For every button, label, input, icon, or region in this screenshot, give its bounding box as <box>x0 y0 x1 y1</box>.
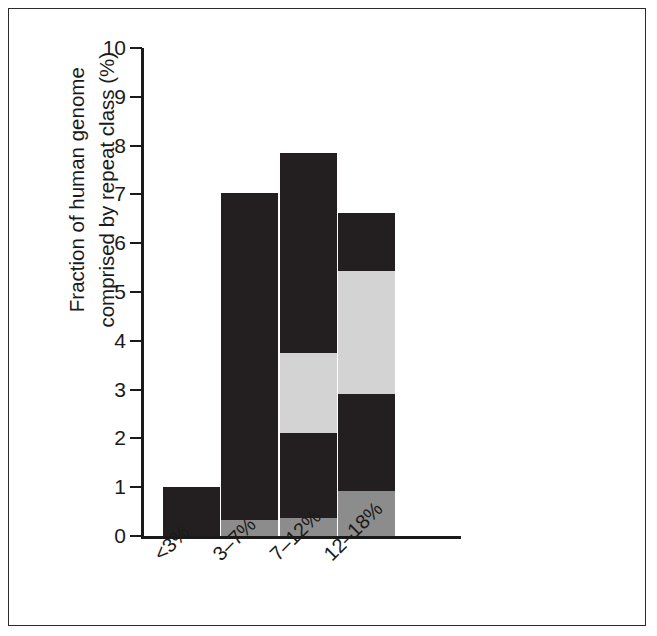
y-tick-label: 5 <box>92 281 126 302</box>
y-tick-label: 7 <box>92 183 126 204</box>
bar-segment-segment-lower-dark <box>338 394 395 492</box>
y-tick-label-text: 7 <box>96 183 126 204</box>
y-tick-mark <box>130 96 142 98</box>
bar-segment-segment-light <box>338 271 395 393</box>
y-tick-mark <box>130 193 142 195</box>
y-tick-label: 10 <box>92 37 126 58</box>
bar-segment-segment-light <box>280 353 337 433</box>
y-tick-label: 3 <box>92 379 126 400</box>
y-tick-mark <box>130 486 142 488</box>
y-tick-label-text: 4 <box>96 330 126 351</box>
y-tick-label: 2 <box>92 427 126 448</box>
y-tick-mark <box>130 340 142 342</box>
y-tick-label-text: 5 <box>96 281 126 302</box>
y-tick-label: 6 <box>92 232 126 253</box>
y-tick-label-text: 8 <box>96 135 126 156</box>
y-axis-line <box>141 48 144 539</box>
y-tick-label-text: 3 <box>96 379 126 400</box>
y-tick-label: 4 <box>92 330 126 351</box>
y-tick-label-text: 6 <box>96 232 126 253</box>
y-tick-mark <box>130 291 142 293</box>
y-tick-label-text: 1 <box>96 476 126 497</box>
bar-chart-plot: Fraction of human genome comprised by re… <box>0 0 657 636</box>
y-tick-mark <box>130 242 142 244</box>
bar-segment-segment-lower-dark <box>221 193 278 520</box>
y-tick-label-text: 2 <box>96 427 126 448</box>
y-tick-mark <box>130 47 142 49</box>
y-tick-label: 9 <box>92 86 126 107</box>
y-tick-label-text: 9 <box>96 86 126 107</box>
bar-segment-segment-upper-dark <box>338 213 395 271</box>
y-tick-label: 8 <box>92 135 126 156</box>
y-tick-label: 1 <box>92 476 126 497</box>
y-tick-label-text: 10 <box>96 37 126 58</box>
y-tick-mark <box>130 437 142 439</box>
y-tick-mark <box>130 535 142 537</box>
y-tick-label: 0 <box>92 525 126 546</box>
y-tick-mark <box>130 145 142 147</box>
y-axis-title-line1: Fraction of human genome <box>62 0 92 400</box>
y-tick-label-text: 0 <box>96 525 126 546</box>
y-tick-mark <box>130 389 142 391</box>
bar-segment-segment-upper-dark <box>280 153 337 354</box>
